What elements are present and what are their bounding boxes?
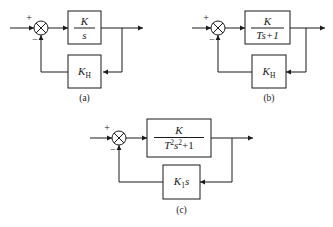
plus-sign-a: + <box>26 12 32 23</box>
diagram-c: + − K T2s2+1 K1s (c) <box>90 119 253 216</box>
input-arrow-b <box>206 26 211 31</box>
output-arrow-c <box>248 136 253 141</box>
feedback-return-arrow-b <box>216 35 221 40</box>
input-arrow-c <box>107 136 112 141</box>
feedback-block-b-subscript: H <box>270 71 276 80</box>
feedback-arrow-b <box>286 70 291 75</box>
caption-b: (b) <box>263 93 274 104</box>
input-arrow-a <box>29 26 34 31</box>
minus-sign-b: − <box>209 34 215 45</box>
forward-block-a-denominator: s <box>82 29 86 41</box>
forward-block-c-den-tail: +1 <box>182 139 194 151</box>
error-arrow-a <box>63 26 68 31</box>
forward-block-c-numerator: K <box>174 124 183 136</box>
diagram-a: + − K s KH (a) <box>10 11 143 104</box>
minus-sign-a: − <box>32 34 38 45</box>
output-arrow-b <box>320 26 325 31</box>
caption-a: (a) <box>79 93 90 104</box>
output-arrow-a <box>138 26 143 31</box>
forward-block-b-numerator: K <box>263 15 272 27</box>
feedback-return-arrow-a <box>39 35 44 40</box>
feedback-block-c-tail: s <box>185 175 189 187</box>
diagram-b: + − K Ts+1 KH (b) <box>192 11 325 104</box>
feedback-arrow-a <box>103 70 108 75</box>
feedback-arrow-c <box>200 180 205 185</box>
forward-block-a-numerator: K <box>80 15 89 27</box>
error-arrow-b <box>240 26 245 31</box>
plus-sign-c: + <box>104 122 110 133</box>
plus-sign-b: + <box>203 12 209 23</box>
minus-sign-c: − <box>110 144 116 155</box>
forward-block-b-denominator: Ts+1 <box>256 29 278 41</box>
error-arrow-c <box>142 136 147 141</box>
figure-canvas: + − K s KH (a) <box>0 0 333 227</box>
feedback-block-a-subscript: H <box>85 71 91 80</box>
caption-c: (c) <box>176 205 187 216</box>
feedback-return-arrow-c <box>117 145 122 150</box>
